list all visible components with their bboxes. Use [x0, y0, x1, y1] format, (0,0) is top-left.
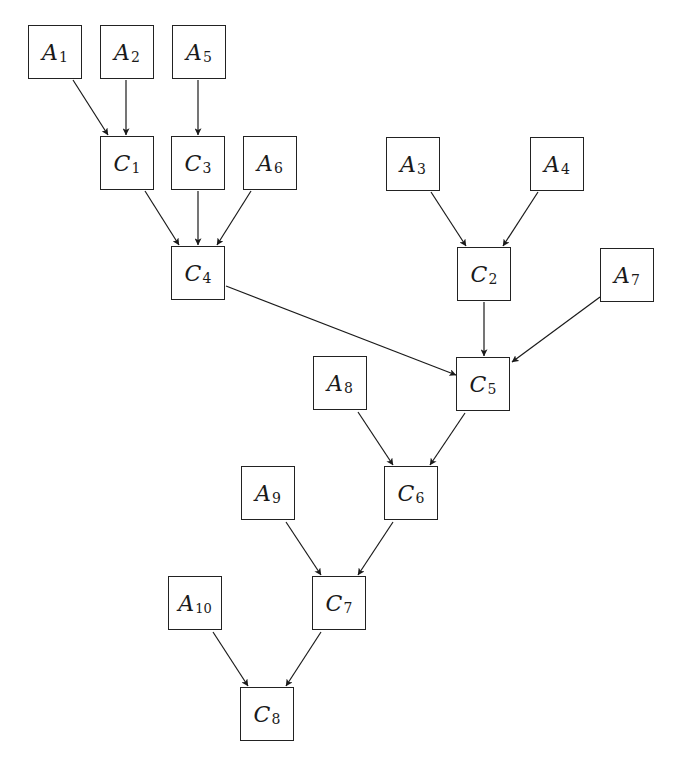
node-letter: C [398, 481, 415, 506]
edge-a10-to-c8-arrow [213, 632, 248, 686]
node-c7: C7 [312, 576, 366, 630]
node-a4: A4 [530, 137, 584, 191]
node-c5: C5 [456, 357, 510, 411]
node-c6: C6 [384, 466, 438, 520]
node-a10: A10 [168, 576, 222, 630]
node-subscript: 8 [271, 711, 280, 727]
node-c3: C3 [171, 136, 225, 190]
node-subscript: 3 [202, 160, 211, 176]
node-subscript: 3 [417, 161, 426, 177]
node-letter: A [400, 152, 416, 177]
node-subscript: 5 [487, 381, 496, 397]
node-letter: A [42, 40, 58, 65]
node-subscript: 2 [131, 49, 140, 65]
edge-a1-to-c1-arrow [73, 80, 108, 135]
edge-c1-to-c4-arrow [145, 191, 179, 245]
node-subscript: 7 [343, 600, 352, 616]
node-a3: A3 [386, 137, 440, 191]
node-subscript: 2 [488, 271, 497, 287]
node-letter: A [614, 263, 630, 288]
node-subscript: 6 [274, 160, 283, 176]
node-letter: C [185, 151, 202, 176]
edge-a8-to-c6-arrow [358, 412, 393, 465]
node-subscript: 4 [202, 270, 211, 286]
node-letter: C [185, 261, 202, 286]
node-subscript: 5 [203, 49, 212, 65]
node-a5: A5 [172, 25, 226, 79]
edge-a9-to-c7-arrow [286, 522, 321, 575]
node-letter: C [254, 702, 271, 727]
edge-c5-to-c6-arrow [430, 413, 465, 465]
node-subscript: 4 [561, 161, 570, 177]
node-subscript: 1 [59, 49, 68, 65]
node-subscript: 6 [415, 490, 424, 506]
edge-a4-to-c2-arrow [503, 192, 538, 246]
node-a2: A2 [100, 25, 154, 79]
node-subscript: 10 [195, 601, 212, 616]
node-subscript: 9 [272, 490, 281, 506]
node-a8: A8 [313, 356, 367, 410]
node-letter: A [255, 481, 271, 506]
node-c2: C2 [457, 247, 511, 301]
edge-a6-to-c4-arrow [217, 191, 251, 245]
node-c8: C8 [240, 687, 294, 741]
node-letter: A [327, 371, 343, 396]
node-a9: A9 [241, 466, 295, 520]
node-a6: A6 [243, 136, 297, 190]
node-letter: C [471, 262, 488, 287]
node-letter: A [178, 591, 194, 616]
node-a7: A7 [600, 248, 654, 302]
node-c1: C1 [100, 136, 154, 190]
node-letter: C [470, 372, 487, 397]
node-letter: A [186, 40, 202, 65]
node-a1: A1 [28, 25, 82, 79]
node-letter: A [257, 151, 273, 176]
node-subscript: 8 [344, 380, 353, 396]
edge-c7-to-c8-arrow [286, 632, 321, 686]
node-c4: C4 [171, 246, 225, 300]
node-subscript: 7 [631, 272, 640, 288]
edge-a7-to-c5-arrow [512, 297, 600, 362]
node-letter: C [326, 591, 343, 616]
edge-c6-to-c7-arrow [358, 522, 393, 575]
edge-a3-to-c2-arrow [431, 192, 466, 246]
node-letter: A [114, 40, 130, 65]
node-letter: A [544, 152, 560, 177]
node-subscript: 1 [131, 160, 140, 176]
node-letter: C [114, 151, 131, 176]
dependency-tree-diagram: A1 A2 A5 C1 C3 A6 A3 A4 C4 C2 A7 A8 C5 A… [0, 0, 678, 770]
